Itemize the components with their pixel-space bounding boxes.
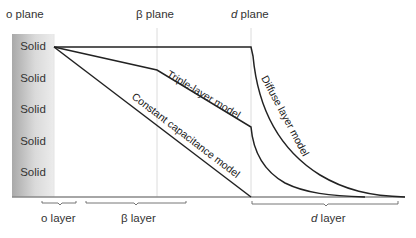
potential-diagram: Triple-layer model Constant capacitance … xyxy=(0,0,416,238)
triple-layer-label: Triple-layer model xyxy=(165,67,243,120)
beta-layer-brace xyxy=(86,201,186,205)
d-layer-label-rest: layer xyxy=(317,212,345,224)
beta-layer-label: β layer xyxy=(121,212,156,224)
o-layer-brace xyxy=(42,201,76,205)
d-layer-brace xyxy=(252,201,398,206)
d-layer-label: d layer xyxy=(311,212,346,224)
o-layer-label: o layer xyxy=(41,212,76,224)
